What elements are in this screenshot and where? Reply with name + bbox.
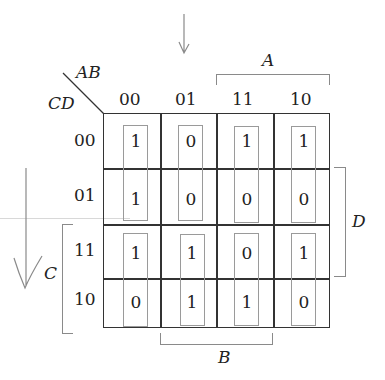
- bracket-d-label: D: [352, 213, 366, 230]
- column-variables-label: CD: [48, 95, 75, 112]
- bracket-c: [62, 224, 73, 334]
- cell-r1-c1: 0: [183, 191, 199, 208]
- cell-r1-c3: 0: [296, 191, 312, 208]
- cell-r3-c2: 1: [239, 294, 255, 311]
- column-header-11: 11: [232, 91, 254, 108]
- row-header-01: 01: [74, 187, 96, 204]
- pencil-arrow-top-icon: [176, 12, 192, 56]
- cell-r2-c3: 1: [296, 245, 312, 262]
- grid-divider: [160, 114, 162, 327]
- grid-divider: [273, 114, 275, 327]
- cell-r2-c0: 1: [128, 245, 144, 262]
- row-header-11: 11: [74, 242, 96, 259]
- cell-r1-c0: 1: [128, 191, 144, 208]
- bracket-d: [334, 167, 346, 277]
- cell-r1-c2: 0: [239, 191, 255, 208]
- bracket-b: [160, 333, 273, 345]
- cell-r0-c0: 1: [128, 133, 144, 150]
- bracket-b-label: B: [218, 349, 231, 366]
- karnaugh-map-grid: 1 0 1 1 1 0 0 0 1 1 0 1 0 1 1 0: [103, 113, 330, 328]
- cell-r2-c2: 0: [239, 245, 255, 262]
- pencil-arrow-left-icon: [8, 166, 44, 296]
- row-variables-label: AB: [76, 64, 101, 81]
- cell-r3-c3: 0: [296, 294, 312, 311]
- bracket-a-label: A: [262, 52, 274, 69]
- grid-divider: [104, 224, 329, 226]
- cell-r3-c0: 0: [128, 294, 144, 311]
- cell-r0-c3: 1: [296, 133, 312, 150]
- column-header-01: 01: [175, 91, 197, 108]
- row-header-10: 10: [74, 291, 96, 308]
- bracket-a: [216, 74, 330, 85]
- column-header-00: 00: [119, 91, 141, 108]
- cell-r2-c1: 1: [184, 245, 200, 262]
- cell-r0-c1: 0: [183, 133, 199, 150]
- cell-r0-c2: 1: [239, 133, 255, 150]
- row-header-00: 00: [74, 132, 96, 149]
- grid-divider: [216, 114, 218, 327]
- bracket-c-label: C: [44, 265, 57, 282]
- cell-r3-c1: 1: [184, 294, 200, 311]
- column-header-10: 10: [290, 91, 312, 108]
